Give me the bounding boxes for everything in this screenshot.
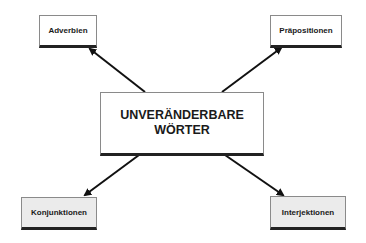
arrow-to-adverbien — [90, 49, 145, 92]
node-label: Interjektionen — [282, 208, 334, 217]
node-label: Konjunktionen — [31, 208, 87, 217]
node-interjektionen: Interjektionen — [270, 196, 346, 230]
center-label-line1: UNVERÄNDERBARE — [120, 108, 244, 123]
node-adverbien: Adverbien — [39, 15, 97, 48]
arrow-to-konjunktionen — [85, 155, 139, 195]
node-label: Präpositionen — [279, 26, 332, 35]
node-label: Adverbien — [48, 26, 87, 35]
arrow-to-praepositionen — [222, 48, 281, 92]
node-konjunktionen: Konjunktionen — [21, 197, 97, 230]
node-praepositionen: Präpositionen — [270, 15, 342, 48]
center-label-line2: WÖRTER — [154, 123, 210, 138]
center-node: UNVERÄNDERBARE WÖRTER — [100, 92, 264, 156]
arrow-to-interjektionen — [225, 155, 283, 195]
